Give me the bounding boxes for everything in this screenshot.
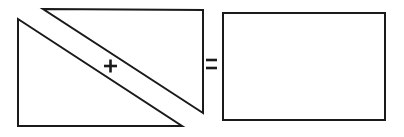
geometry-figure [0,0,404,137]
figure-canvas [0,0,404,137]
result-rectangle [223,13,385,120]
